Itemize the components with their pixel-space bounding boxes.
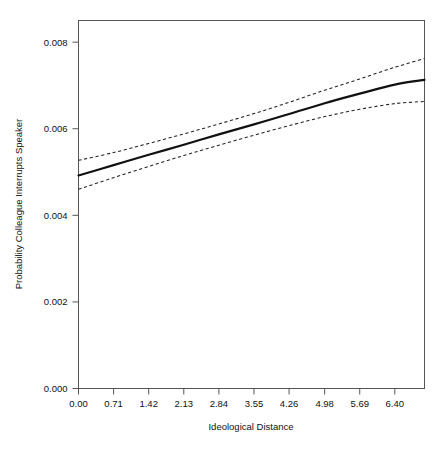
chart-series-group [79,59,425,190]
y-tick-label: 0.000 [44,383,68,394]
y-tick-label: 0.002 [44,296,68,307]
x-tick-label: 2.84 [210,398,229,409]
plot-frame [79,21,425,389]
x-tick-label: 3.55 [245,398,264,409]
y-tick-label: 0.008 [44,37,68,48]
x-tick-label: 1.42 [139,398,158,409]
x-tick-label: 0.71 [104,398,123,409]
chart-container: 0.0000.0020.0040.0060.008 0.000.711.422.… [0,0,436,451]
x-tick-label: 4.98 [315,398,334,409]
x-tick-label: 6.40 [386,398,405,409]
x-tick-label: 4.26 [280,398,299,409]
confidence-band-upper-line [79,59,425,161]
x-tick-label: 5.69 [350,398,369,409]
confidence-band-lower-line [79,101,425,189]
x-tick-label: 2.13 [175,398,194,409]
chart-plot-svg: 0.0000.0020.0040.0060.008 0.000.711.422.… [0,0,436,451]
y-axis-title: Probability Colleague Interrupts Speaker [13,119,24,290]
y-axis-ticks: 0.0000.0020.0040.0060.008 [44,37,79,394]
fitted-probability-line [79,80,425,176]
y-tick-label: 0.006 [44,123,68,134]
x-axis-ticks: 0.000.711.422.132.843.554.264.985.696.40 [69,389,404,409]
x-axis-title: Ideological Distance [208,421,293,432]
x-tick-label: 0.00 [69,398,88,409]
y-tick-label: 0.004 [44,210,68,221]
